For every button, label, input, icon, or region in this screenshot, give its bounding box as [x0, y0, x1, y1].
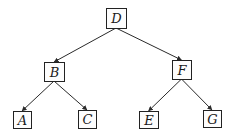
edge-b-c [54, 81, 87, 110]
edge-d-f [116, 28, 182, 60]
node-label: A [17, 113, 27, 128]
node-d: D [107, 9, 127, 29]
node-label: B [49, 65, 60, 80]
node-e: E [140, 112, 159, 129]
node-label: D [110, 11, 122, 26]
edge-d-b [54, 28, 116, 62]
node-a: A [14, 112, 32, 129]
node-g: G [204, 111, 222, 128]
nodes-layer: DBFACEG [14, 9, 222, 129]
edge-b-a [22, 81, 54, 111]
node-b: B [45, 63, 65, 82]
tree-diagram: DBFACEG [0, 0, 234, 139]
node-f: F [173, 61, 192, 80]
node-label: F [176, 63, 187, 78]
edge-f-e [149, 79, 182, 111]
node-label: G [207, 112, 217, 127]
node-c: C [79, 111, 97, 129]
edge-f-g [182, 79, 213, 110]
node-label: E [143, 113, 154, 128]
node-label: C [83, 112, 93, 127]
